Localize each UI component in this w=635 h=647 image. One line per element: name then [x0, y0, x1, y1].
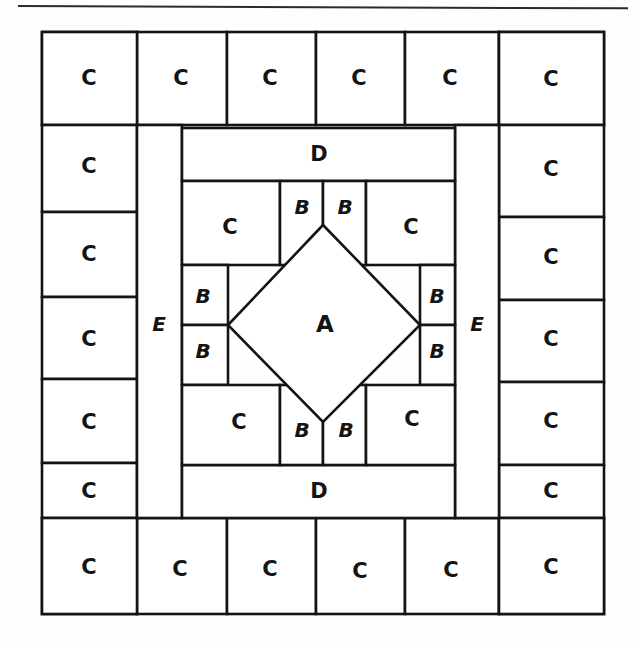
label-sashing-left-e: E: [152, 312, 166, 336]
quilt-block-diagram: C C C C C C C C C C C C C C C C: [0, 0, 635, 647]
label-center-b-right-lower: B: [429, 339, 444, 363]
label-border-bottom-2: C: [172, 557, 187, 581]
label-center-b-right-upper: B: [429, 284, 444, 308]
label-border-bottom-3: C: [262, 557, 277, 581]
border-right-column: [499, 32, 604, 614]
label-border-left-2: C: [81, 154, 96, 178]
label-center-c-top-left: C: [222, 215, 237, 239]
label-center-b-left-upper: B: [195, 284, 210, 308]
label-sashing-right-e: E: [470, 312, 484, 336]
label-border-right-3: C: [543, 245, 558, 269]
label-center-c-top-right: C: [403, 215, 418, 239]
label-border-right-6: C: [543, 479, 558, 503]
label-center-b-left-lower: B: [195, 339, 210, 363]
label-center-c-bottom-right: C: [404, 407, 419, 431]
label-border-right-2: C: [543, 157, 558, 181]
label-border-left-6: C: [81, 479, 96, 503]
label-center-c-bottom-left: C: [231, 410, 246, 434]
label-center-patch-a: A: [316, 311, 334, 337]
label-center-b-top-right: B: [337, 195, 352, 219]
label-border-left-3: C: [81, 242, 96, 266]
label-center-b-bottom-left: B: [294, 418, 309, 442]
label-border-top-5: C: [442, 66, 457, 90]
label-sashing-top-d: D: [310, 142, 327, 166]
label-border-right-5: C: [543, 409, 558, 433]
label-border-bottom-6: C: [543, 555, 558, 579]
label-border-left-4: C: [81, 327, 96, 351]
label-sashing-bottom-d: D: [310, 479, 327, 503]
label-border-top-1: C: [81, 66, 96, 90]
scanned-page: C C C C C C C C C C C C C C C C: [0, 0, 635, 647]
label-border-top-2: C: [173, 66, 188, 90]
label-border-bottom-4: C: [352, 559, 367, 583]
label-border-top-3: C: [262, 66, 277, 90]
label-center-b-top-left: B: [294, 195, 309, 219]
label-border-bottom-1: C: [81, 555, 96, 579]
label-border-top-6: C: [543, 67, 558, 91]
quilt-block-svg: C C C C C C C C C C C C C C C C: [0, 0, 635, 647]
label-center-b-bottom-right: B: [338, 418, 353, 442]
label-border-top-4: C: [351, 66, 366, 90]
label-border-right-4: C: [543, 327, 558, 351]
label-border-bottom-5: C: [443, 558, 458, 582]
border-left-column: [42, 32, 137, 614]
label-border-left-5: C: [81, 410, 96, 434]
